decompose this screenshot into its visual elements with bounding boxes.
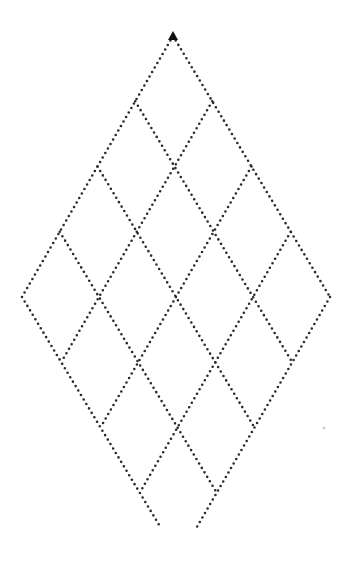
grid-line-down-left — [196, 297, 330, 528]
grid-line-down-right — [135, 101, 292, 362]
grid-lines — [22, 36, 330, 528]
top-vertex-triangle-marker — [168, 31, 178, 40]
stray-speck — [323, 427, 326, 430]
grid-line-down-right — [60, 232, 217, 493]
grid-line-down-left — [140, 232, 291, 493]
grid-line-down-left — [101, 167, 252, 428]
rhombus-lattice-diagram — [0, 0, 350, 561]
grid-line-down-right — [22, 297, 161, 528]
grid-line-down-left — [61, 101, 212, 362]
